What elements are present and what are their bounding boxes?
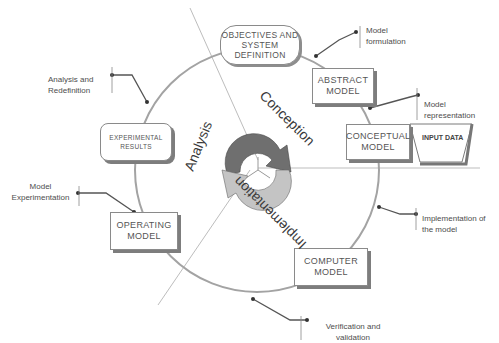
node-abstract-label: ABSTRACT MODEL	[313, 75, 373, 97]
node-operating-model: OPERATING MODEL	[110, 212, 178, 250]
note-implementation: Implementation of the model	[422, 213, 497, 235]
node-operating-label: OPERATING MODEL	[111, 220, 177, 242]
node-objectives: OBJECTIVES AND SYSTEM DEFINITION	[220, 25, 300, 65]
node-input-data-label: INPUT DATA	[422, 134, 463, 141]
note-verification: Verification and validation	[318, 321, 388, 343]
node-computer-model: COMPUTER MODEL	[294, 248, 368, 286]
node-conceptual-label: CONCEPTUAL MODEL	[346, 131, 410, 153]
node-conceptual-model: CONCEPTUAL MODEL	[346, 124, 410, 160]
node-experimental-label: EXPERIMENTAL RESULTS	[101, 133, 171, 151]
note-model-formulation: Model formulation	[366, 25, 426, 47]
node-experimental-results: EXPERIMENTAL RESULTS	[100, 123, 172, 161]
note-model-representation: Model representation	[424, 99, 484, 121]
input-data-shape	[410, 124, 472, 162]
note-analysis-redefinition: Analysis and Redefinition	[48, 74, 108, 96]
node-objectives-label: OBJECTIVES AND SYSTEM DEFINITION	[221, 30, 299, 60]
node-computer-label: COMPUTER MODEL	[295, 256, 367, 278]
node-abstract-model: ABSTRACT MODEL	[312, 68, 374, 104]
note-model-experimentation: Model Experimentation	[3, 181, 78, 203]
